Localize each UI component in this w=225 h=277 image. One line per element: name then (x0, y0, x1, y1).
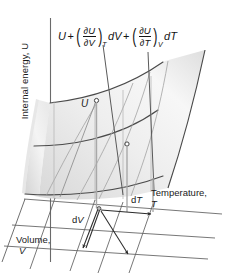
point-u-plus-marker (125, 142, 129, 146)
dt-arrow (101, 210, 151, 214)
axis-label-temperature-symbol: T (151, 199, 207, 209)
formula-plus-2: + (123, 31, 129, 43)
axis-label-internal-energy: Internal energy, U (20, 16, 30, 146)
formula-close-paren-2: ) (153, 26, 157, 47)
formula-denominator-1: ∂V (83, 36, 96, 47)
thermodynamics-surface-figure: Internal energy, U Temperature, T Volume… (0, 0, 225, 277)
formula-subscript-1: T (102, 41, 106, 48)
formula-subscript-2: V (158, 41, 163, 48)
formula-open-paren-1: ( (77, 26, 81, 47)
dv-arrow-second-edge (86, 209, 100, 248)
formula-open-paren-2: ( (132, 26, 136, 47)
dt-label-symbol: T (136, 194, 142, 205)
dt-label: dT (131, 195, 142, 205)
formula-partial-v-group: ( ∂U ∂V ) T (75, 26, 106, 47)
point-u-marker (94, 98, 98, 102)
dv-label-symbol: V (77, 214, 83, 225)
formula-fraction-1: ∂U ∂V (83, 26, 97, 47)
formula-dt-term: dT (164, 31, 177, 43)
formula-base-term: U (58, 31, 66, 43)
formula-fraction-2: ∂U ∂T (138, 26, 152, 47)
axis-label-volume-text: Volume, (16, 234, 50, 245)
axis-label-temperature-text: Temperature, (151, 187, 207, 198)
energy-expansion-formula: U + ( ∂U ∂V ) T dV + ( ∂U ∂T ) V dT (58, 26, 177, 47)
formula-numerator-1: ∂U (83, 26, 97, 36)
formula-close-paren-1: ) (98, 26, 102, 47)
axis-label-volume-symbol: V (19, 246, 50, 256)
formula-plus-1: + (67, 31, 73, 43)
axis-label-volume: Volume, V (16, 235, 50, 256)
base-origin-point (97, 207, 101, 211)
dv-label: dV (72, 215, 84, 225)
formula-dv-term: dV (108, 31, 121, 43)
formula-denominator-2: ∂T (139, 36, 152, 47)
point-u-label: U (81, 99, 88, 110)
formula-numerator-2: ∂U (138, 26, 152, 36)
axis-label-temperature: Temperature, T (151, 188, 207, 209)
formula-partial-t-group: ( ∂U ∂T ) V (131, 26, 163, 47)
